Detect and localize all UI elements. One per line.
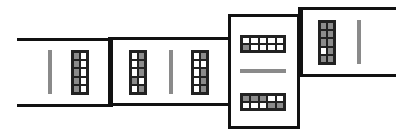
filled-cell [327,22,334,30]
segment-1-top-edge [17,38,112,41]
segment-2-vertical-bar [169,50,173,94]
segment-4-left-edge [298,7,303,77]
empty-cell [193,77,200,85]
empty-cell [267,95,275,102]
filled-cell [138,68,145,76]
empty-cell [80,77,87,85]
empty-cell [259,102,267,109]
filled-cell [259,95,267,102]
filled-cell [138,85,145,93]
empty-cell [131,52,138,60]
filled-cell [327,55,334,63]
empty-cell [259,44,267,51]
segment-4-grid [318,20,336,65]
segment-2-top-edge [110,37,230,40]
filled-cell [327,30,334,38]
filled-cell [131,77,138,85]
empty-cell [193,68,200,76]
filled-cell [73,85,80,93]
filled-cell [320,55,327,63]
filled-cell [320,38,327,46]
empty-cell [80,85,87,93]
filled-cell [242,95,250,102]
filled-cell [320,30,327,38]
empty-cell [259,37,267,44]
filled-cell [73,52,80,60]
empty-cell [250,102,258,109]
filled-cell [138,60,145,68]
empty-cell [276,44,284,51]
empty-cell [267,44,275,51]
filled-cell [200,52,207,60]
empty-cell [320,47,327,55]
empty-cell [131,85,138,93]
empty-cell [250,37,258,44]
filled-cell [242,44,250,51]
filled-cell [73,77,80,85]
segment-4-vertical-bar [357,20,361,64]
empty-cell [193,52,200,60]
segment-2-grid-right [191,50,209,95]
empty-cell [276,95,284,102]
empty-cell [250,44,258,51]
empty-cell [200,60,207,68]
segment-3-grid-bottom [240,93,286,111]
filled-cell [138,52,145,60]
empty-cell [131,60,138,68]
segment-2-bottom-edge [110,103,230,106]
filled-cell [327,38,334,46]
empty-cell [138,77,145,85]
filled-cell [200,68,207,76]
empty-cell [267,37,275,44]
segment-1-bottom-edge [17,104,112,107]
empty-cell [242,102,250,109]
empty-cell [131,68,138,76]
empty-cell [80,60,87,68]
segment-divider [108,37,113,107]
filled-cell [200,85,207,93]
segment-2-grid-left [129,50,147,95]
segment-3-grid-top [240,35,286,53]
empty-cell [193,85,200,93]
empty-cell [80,68,87,76]
empty-cell [193,60,200,68]
filled-cell [327,47,334,55]
filled-cell [73,68,80,76]
segment-4-top-edge [300,7,396,10]
filled-cell [200,77,207,85]
empty-cell [276,37,284,44]
filled-cell [250,95,258,102]
filled-cell [320,22,327,30]
empty-cell [80,52,87,60]
segment-1-vertical-bar [48,50,52,94]
segment-4-bottom-edge [300,74,396,77]
segment-3-horizontal-bar [240,69,286,73]
filled-cell [73,60,80,68]
empty-cell [242,37,250,44]
segment-1-grid [71,50,89,95]
filled-cell [276,102,284,109]
filled-cell [267,102,275,109]
